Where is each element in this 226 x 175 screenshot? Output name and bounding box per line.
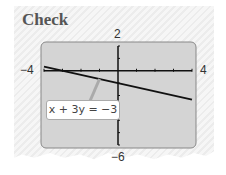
equation-callout: x + 3y = −3 — [46, 100, 120, 120]
calculator-screen — [0, 0, 226, 175]
